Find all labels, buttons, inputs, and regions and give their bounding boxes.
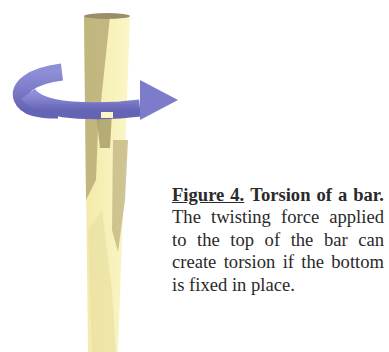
figure-caption: Figure 4. Torsion of a bar. The twisting…	[172, 184, 384, 296]
figure-label: Figure 4.	[172, 184, 244, 205]
bar-icon	[84, 13, 130, 352]
figure-title: Torsion of a bar.	[250, 184, 384, 205]
torsion-bar-illustration	[0, 0, 200, 352]
figure: Figure 4. Torsion of a bar. The twisting…	[0, 0, 389, 352]
figure-body: The twisting force applied to the top of…	[172, 206, 384, 294]
